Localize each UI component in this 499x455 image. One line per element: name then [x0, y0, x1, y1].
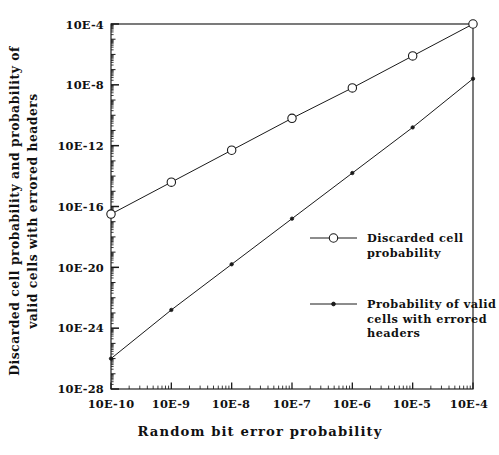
series-0-marker-2 — [227, 146, 235, 154]
series-1-marker-2 — [230, 263, 233, 266]
series-0-marker-1 — [167, 178, 175, 186]
legend-markers — [310, 234, 357, 306]
legend-0-sample-marker — [329, 234, 337, 242]
series-0-marker-0 — [107, 210, 115, 218]
legend-entry-1-label: Probability of valid cells with errored … — [367, 297, 496, 341]
series-1-marker-3 — [290, 217, 293, 220]
series-1-marker-0 — [109, 357, 112, 360]
legend-entry-0-line-1: Discarded cell — [367, 231, 463, 246]
series-1-marker-4 — [351, 171, 354, 174]
series-1-marker-6 — [471, 77, 474, 80]
legend-entry-1-line-1: Probability of valid — [367, 297, 496, 312]
series-1-marker-1 — [170, 308, 173, 311]
series-0-marker-6 — [469, 20, 477, 28]
series-0-marker-4 — [348, 84, 356, 92]
series-0-marker-3 — [288, 114, 296, 122]
legend-entry-1-line-2: cells with errored — [367, 312, 496, 327]
legend-1-sample-marker — [332, 302, 336, 306]
legend-entry-0-line-2: probability — [367, 246, 463, 261]
series-0-marker-5 — [408, 52, 416, 60]
legend-entry-1-line-3: headers — [367, 326, 496, 341]
legend-entry-0-label: Discarded cell probability — [367, 231, 463, 260]
series-1-marker-5 — [411, 126, 414, 129]
